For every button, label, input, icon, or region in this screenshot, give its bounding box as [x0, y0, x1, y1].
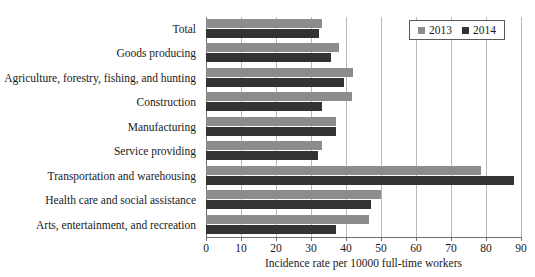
x-axis-tick-label: 70 [445, 241, 457, 255]
bar-group [206, 188, 521, 212]
bar [206, 19, 322, 28]
bar [206, 151, 318, 160]
bar [206, 53, 331, 62]
bar [206, 200, 371, 209]
bar [206, 117, 336, 126]
legend-swatch-icon [418, 27, 425, 34]
gridline [521, 17, 522, 237]
bar-group [206, 213, 521, 237]
bar [206, 190, 381, 199]
legend-item: 2013 [418, 24, 452, 36]
category-label: Transportation and warehousing [48, 164, 196, 188]
x-axis-line [206, 237, 521, 238]
bar-group [206, 90, 521, 114]
legend-item: 2014 [462, 24, 496, 36]
x-axis-tick-label: 50 [375, 241, 387, 255]
bar [206, 92, 352, 101]
x-axis-tick-label: 20 [270, 241, 282, 255]
x-axis-tick-label: 0 [203, 241, 209, 255]
bar-rows [206, 17, 521, 237]
category-label: Agriculture, forestry, fishing, and hunt… [4, 66, 196, 90]
bar-group [206, 164, 521, 188]
legend-label: 2014 [473, 24, 496, 36]
category-label: Manufacturing [128, 115, 196, 139]
bar-group [206, 66, 521, 90]
category-label: Arts, entertainment, and recreation [36, 213, 196, 237]
category-label: Construction [137, 90, 196, 114]
x-axis-tick-label: 80 [480, 241, 492, 255]
x-axis-tick-labels: 0102030405060708090 [206, 241, 521, 257]
bar [206, 166, 481, 175]
legend-label: 2013 [429, 24, 452, 36]
plot-area [206, 17, 521, 237]
x-axis-tick-label: 10 [235, 241, 247, 255]
bar [206, 68, 353, 77]
x-axis-tick-label: 60 [410, 241, 422, 255]
legend-swatch-icon [462, 27, 469, 34]
bar [206, 141, 322, 150]
bar-group [206, 115, 521, 139]
category-label: Health care and social assistance [45, 188, 196, 212]
bar [206, 78, 344, 87]
category-label: Goods producing [116, 41, 196, 65]
bar [206, 29, 319, 38]
bar [206, 43, 339, 52]
bar [206, 127, 336, 136]
bar-group [206, 139, 521, 163]
x-axis-tick-label: 30 [305, 241, 317, 255]
bar-group [206, 41, 521, 65]
bar [206, 102, 322, 111]
category-axis-labels: TotalGoods producingAgriculture, forestr… [0, 17, 200, 237]
legend: 20132014 [409, 20, 505, 40]
x-axis-tick-label: 90 [515, 241, 527, 255]
bar [206, 225, 336, 234]
bar [206, 176, 514, 185]
x-axis-title: Incidence rate per 10000 full-time worke… [206, 257, 521, 269]
bar [206, 215, 369, 224]
bar-chart: TotalGoods producingAgriculture, forestr… [0, 0, 535, 277]
category-label: Total [173, 17, 196, 41]
category-label: Service providing [114, 139, 196, 163]
x-axis-tick-label: 40 [340, 241, 352, 255]
